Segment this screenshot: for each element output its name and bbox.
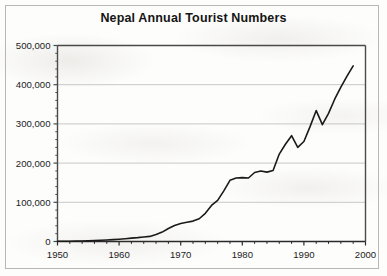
y-tick-label-0: 0 bbox=[45, 236, 50, 247]
x-tick-label-1990: 1990 bbox=[293, 249, 314, 260]
y-tick-label-300000: 300,000 bbox=[16, 118, 51, 129]
x-tick-label-1960: 1960 bbox=[108, 249, 129, 260]
plot-area: 0100,000200,000300,000400,000500,000 195… bbox=[0, 0, 387, 276]
series-line-0 bbox=[58, 66, 354, 241]
x-tick-label-1980: 1980 bbox=[232, 249, 253, 260]
y-tick-label-400000: 400,000 bbox=[16, 79, 51, 90]
gridlines bbox=[58, 46, 366, 203]
y-tick-label-200000: 200,000 bbox=[16, 158, 51, 169]
x-tick-label-1970: 1970 bbox=[170, 249, 191, 260]
axis-lines bbox=[58, 46, 366, 242]
x-tick-label-2000: 2000 bbox=[355, 249, 376, 260]
y-tick-label-100000: 100,000 bbox=[16, 197, 51, 208]
x-axis-tick-labels: 195019601970198019902000 bbox=[47, 249, 376, 260]
y-tick-label-500000: 500,000 bbox=[16, 40, 51, 51]
y-axis-tick-labels: 0100,000200,000300,000400,000500,000 bbox=[16, 40, 51, 247]
data-series-line bbox=[58, 66, 354, 241]
chart-figure: Nepal Annual Tourist Numbers 0100,000200… bbox=[0, 0, 387, 276]
axis-major-ticks bbox=[54, 46, 366, 246]
x-tick-label-1950: 1950 bbox=[47, 249, 68, 260]
